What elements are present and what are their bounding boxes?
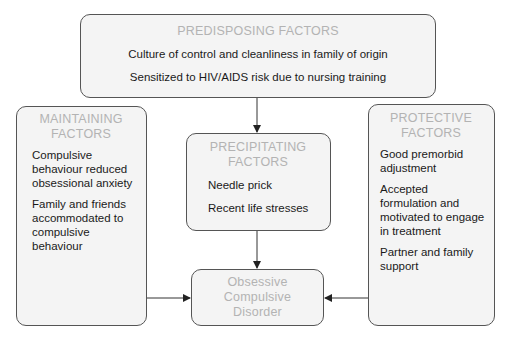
predisposing-item: Sensitized to HIV/AIDS risk due to nursi… [81,70,435,84]
maintaining-factors-box: MAINTAINING FACTORS Compulsive behaviour… [16,106,147,326]
maintaining-item: Compulsive behaviour reduced obsessional… [32,148,138,190]
protective-item: Good premorbid adjustment [380,147,488,175]
precipitating-item: Recent life stresses [208,201,322,215]
precipitating-heading: PRECIPITATING FACTORS [194,140,322,170]
protective-item: Partner and family support [380,245,488,273]
protective-heading: PROTECTIVE FACTORS [374,111,488,141]
predisposing-item: Culture of control and cleanliness in fa… [81,47,435,61]
predisposing-heading: PREDISPOSING FACTORS [81,24,435,39]
protective-item: Accepted formulation and motivated to en… [380,182,488,238]
precipitating-item: Needle prick [208,178,322,192]
predisposing-factors-box: PREDISPOSING FACTORS Culture of control … [80,14,436,98]
precipitating-factors-box: PRECIPITATING FACTORS Needle prick Recen… [186,133,331,231]
ocd-outcome-box: Obsessive Compulsive Disorder [191,269,324,326]
ocd-label: Obsessive Compulsive Disorder [213,275,303,320]
maintaining-item: Family and friends accommodated to compu… [32,197,138,253]
maintaining-heading: MAINTAINING FACTORS [24,112,138,142]
protective-factors-box: PROTECTIVE FACTORS Good premorbid adjust… [368,104,495,326]
